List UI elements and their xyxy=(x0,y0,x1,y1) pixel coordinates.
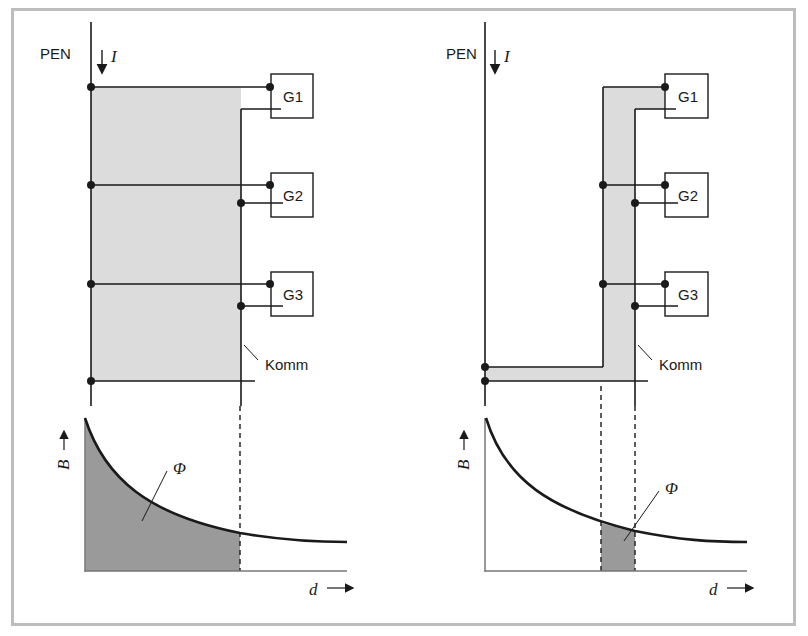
left-komm-label: Komm xyxy=(265,356,308,373)
right-b-curve xyxy=(486,418,747,542)
right-komm-label: Komm xyxy=(659,356,702,373)
right-circuit: PEN I G1 G2 G3 Ko xyxy=(446,22,708,406)
left-g2-label: G2 xyxy=(283,187,303,204)
right-g3-label: G3 xyxy=(678,286,698,303)
left-circuit: PEN I G1 G2 G3 xyxy=(40,22,313,406)
diagram-canvas: PEN I G1 G2 G3 xyxy=(0,0,808,636)
right-y-label: B xyxy=(454,459,473,470)
left-g1-label: G1 xyxy=(283,88,303,105)
left-flux-area xyxy=(85,418,240,571)
right-junction-dots xyxy=(481,83,669,385)
right-flux-chart: B d Φ xyxy=(454,386,752,599)
left-g3-label: G3 xyxy=(283,286,303,303)
right-x-label: d xyxy=(709,580,718,599)
right-current-label: I xyxy=(503,47,511,66)
right-flux-label: Φ xyxy=(665,479,678,498)
left-flux-chart: B d Φ xyxy=(54,406,352,599)
left-x-label: d xyxy=(309,580,318,599)
left-flux-label: Φ xyxy=(173,459,186,478)
left-pen-label: PEN xyxy=(40,45,71,62)
right-pen-label: PEN xyxy=(446,45,477,62)
right-g1-label: G1 xyxy=(678,88,698,105)
left-y-label: B xyxy=(54,459,73,470)
right-g2-label: G2 xyxy=(678,187,698,204)
left-current-label: I xyxy=(110,47,118,66)
right-loop-area xyxy=(485,87,665,381)
left-loop-area xyxy=(91,87,241,381)
